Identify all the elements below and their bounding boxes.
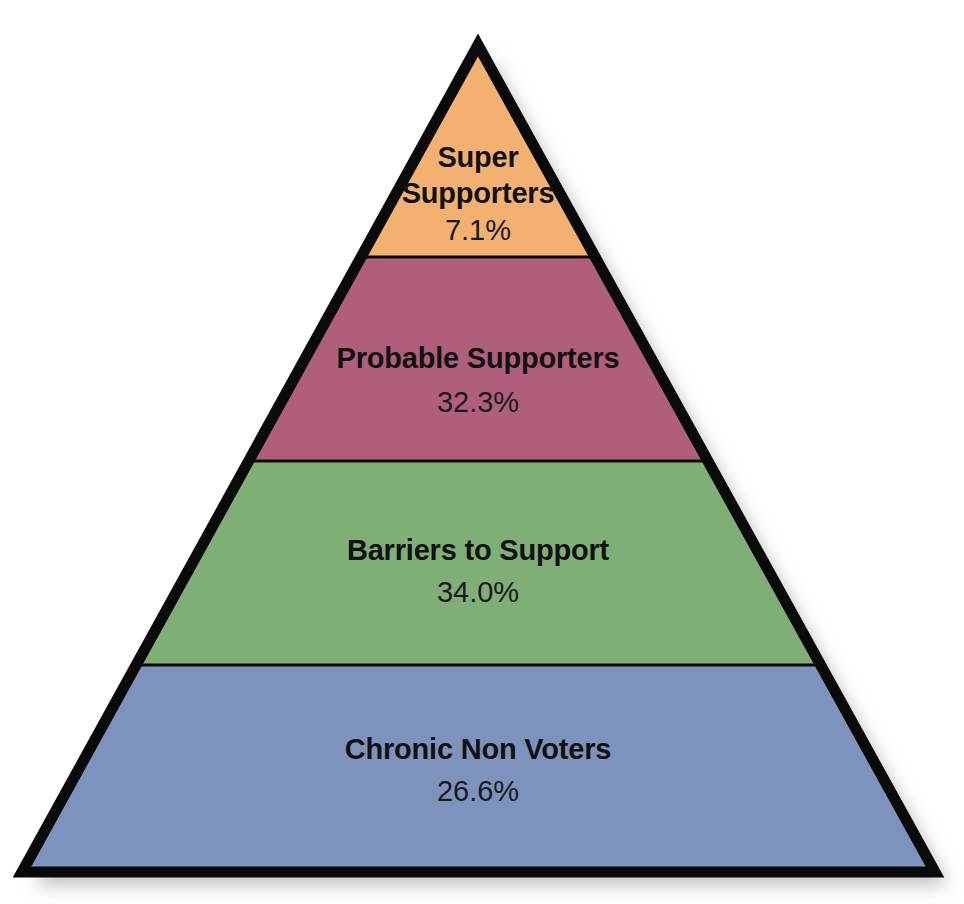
tier-fill-chronic-non-voters <box>0 665 964 880</box>
pyramid-chart: Super Supporters 7.1% Probable Supporter… <box>0 0 964 904</box>
tier-value-chronic-non-voters: 26.6% <box>437 775 519 807</box>
tier-value-probable-supporters: 32.3% <box>437 386 519 418</box>
tier-label-super-supporters-line1: Super <box>437 141 518 173</box>
tier-value-barriers-to-support: 34.0% <box>437 576 519 608</box>
tier-label-chronic-non-voters: Chronic Non Voters <box>345 733 612 765</box>
tier-label-probable-supporters: Probable Supporters <box>336 342 619 374</box>
tier-value-super-supporters: 7.1% <box>445 214 511 246</box>
tier-label-super-supporters-line2: Supporters <box>402 177 555 209</box>
tier-label-barriers-to-support: Barriers to Support <box>347 534 610 566</box>
